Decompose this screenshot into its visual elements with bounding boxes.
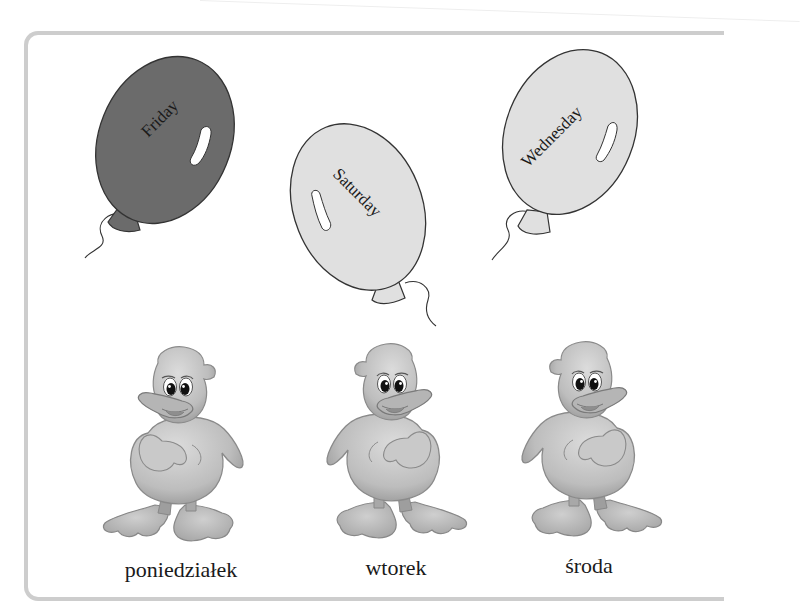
balloon-wednesday: Wednesday bbox=[479, 29, 661, 260]
balloon-friday: Friday bbox=[72, 36, 259, 258]
duck-tuesday bbox=[327, 344, 466, 538]
duck-wednesday bbox=[522, 342, 661, 536]
balloon-saturday: Saturday bbox=[266, 103, 449, 326]
duck-label-wtorek: wtorek bbox=[306, 555, 486, 581]
duck-monday bbox=[103, 347, 242, 541]
duck-label-poniedzialek: poniedziałek bbox=[91, 557, 271, 583]
duck-label-sroda: środa bbox=[499, 553, 679, 579]
